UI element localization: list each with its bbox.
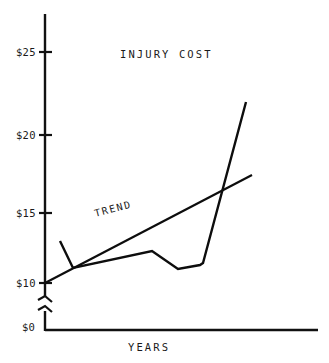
x-axis-title: YEARS: [128, 341, 170, 353]
axis-break-upper-icon: [38, 296, 52, 302]
y-axis-label-0: $0: [22, 321, 35, 333]
chart-title: INJURY COST: [120, 48, 213, 60]
injury-cost-series-line: [60, 102, 246, 269]
injury-cost-chart: $25 $20 $15 $10 $0 INJURY COST TREND YEA…: [0, 0, 329, 363]
y-axis-label-20: $20: [16, 129, 36, 141]
y-axis-label-25: $25: [16, 46, 36, 58]
y-axis-label-10: $10: [16, 277, 36, 289]
y-axis-label-15: $15: [16, 207, 36, 219]
